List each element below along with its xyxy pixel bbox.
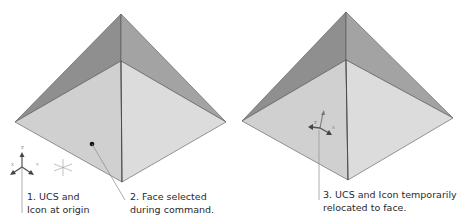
svg-text:Y: Y [35, 162, 39, 167]
right-pyramid [242, 12, 453, 180]
svg-text:Z: Z [314, 120, 317, 125]
callout-3: 3. UCS and Icon temporarily relocated to… [323, 188, 457, 214]
world-axis-marker [54, 159, 72, 176]
callout-2: 2. Face selected during command. [130, 190, 214, 216]
callout-2-line-1: 2. Face selected [130, 190, 214, 203]
left-pyramid [15, 14, 226, 182]
svg-text:X: X [11, 162, 14, 167]
svg-text:Z: Z [21, 145, 24, 150]
callout-1: 1. UCS and Icon at origin [27, 190, 90, 216]
ucs-icon-origin: Z X Y [10, 145, 39, 175]
svg-text:X: X [332, 125, 335, 130]
callout-3-line-1: 3. UCS and Icon temporarily [323, 188, 457, 201]
callout-2-line-2: during command. [130, 203, 214, 216]
callout-1-line-1: 1. UCS and [27, 190, 90, 203]
callout-3-line-2: relocated to face. [323, 201, 457, 214]
callout-1-line-2: Icon at origin [27, 203, 90, 216]
diagram-canvas: Z X Y Z X [0, 0, 464, 219]
